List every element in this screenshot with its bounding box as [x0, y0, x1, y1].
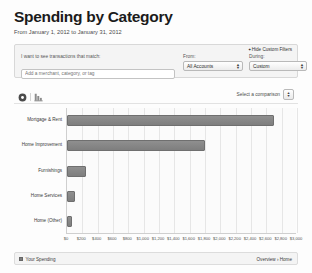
during-filter-field: During: Custom ▲▼ — [249, 54, 307, 71]
filter-panel: ✦Hide Custom Filters I want to see trans… — [14, 44, 298, 78]
chevron-updown-icon: ▲▼ — [287, 92, 291, 98]
chart-legend: Your Spending — [19, 257, 55, 262]
chart-bar[interactable] — [67, 166, 86, 177]
x-tick-label: $2,400 — [244, 236, 257, 241]
chart-bar[interactable] — [67, 216, 72, 227]
report-header: Spending by Category From January 1, 201… — [0, 0, 312, 35]
chart-bar[interactable] — [67, 140, 205, 151]
legend-swatch — [19, 257, 23, 261]
x-tick-label: $1,200 — [152, 236, 165, 241]
x-tick-label: $2,000 — [213, 236, 226, 241]
during-filter-label: During: — [249, 54, 307, 59]
x-tick-label: $1,800 — [198, 236, 211, 241]
x-tick-label: $2,600 — [259, 236, 272, 241]
spending-report-page: Spending by Category From January 1, 201… — [0, 0, 312, 273]
category-label[interactable]: Home Improvement — [2, 142, 62, 147]
x-tick-label: $1,400 — [167, 236, 180, 241]
account-select[interactable]: All Accounts ▲▼ — [183, 61, 243, 71]
gridline — [159, 108, 160, 233]
gridline — [128, 108, 129, 233]
comparison-toolbar: Select a comparison ▲▼ — [14, 84, 298, 104]
x-tick-label: $600 — [107, 236, 116, 241]
period-select-value: Custom — [253, 64, 270, 69]
match-filter-field: I want to see transactions that match: — [21, 54, 175, 79]
chart-footer: Your Spending Overview › Home — [14, 252, 298, 265]
x-tick-label: $1,600 — [182, 236, 195, 241]
from-filter-field: From: All Accounts ▲▼ — [183, 54, 243, 71]
chevron-updown-icon: ▲▼ — [300, 63, 304, 69]
chevron-updown-icon: ▲▼ — [236, 63, 240, 69]
select-comparison-label: Select a comparison — [237, 92, 280, 97]
gridline — [113, 108, 114, 233]
date-range-label: From January 1, 2012 to January 31, 2012 — [14, 29, 312, 35]
category-label[interactable]: Home (Other) — [2, 218, 62, 223]
gridline — [251, 108, 252, 233]
gridline — [266, 108, 267, 233]
star-icon: ✦ — [248, 47, 251, 52]
gridline — [205, 108, 206, 233]
chart-bar[interactable] — [67, 191, 75, 202]
comparison-control: Select a comparison ▲▼ — [237, 89, 294, 100]
category-label[interactable]: Furnishings — [2, 168, 62, 173]
category-label[interactable]: Mortgage & Rent — [2, 117, 62, 122]
chart-plot-area — [66, 108, 296, 234]
spending-bar-chart: Mortgage & RentHome ImprovementFurnishin… — [14, 106, 298, 248]
view-switcher — [18, 88, 43, 106]
gridline — [174, 108, 175, 233]
gridline — [144, 108, 145, 233]
period-select[interactable]: Custom ▲▼ — [249, 61, 307, 71]
hide-custom-filters-label: Hide Custom Filters — [252, 47, 292, 52]
x-tick-label: $800 — [123, 236, 132, 241]
pie-chart-icon[interactable] — [18, 88, 27, 106]
x-tick-label: $400 — [92, 236, 101, 241]
chart-bar[interactable] — [67, 115, 274, 126]
legend-label: Your Spending — [26, 257, 56, 262]
gridline — [282, 108, 283, 233]
from-filter-label: From: — [183, 54, 243, 59]
gridline — [220, 108, 221, 233]
x-tick-label: $0 — [64, 236, 69, 241]
x-tick-label: $2,800 — [274, 236, 287, 241]
x-tick-label: $2,200 — [228, 236, 241, 241]
icon-divider — [30, 93, 31, 101]
gridline — [98, 108, 99, 233]
page-title: Spending by Category — [14, 8, 312, 25]
match-filter-label: I want to see transactions that match: — [21, 54, 175, 59]
match-search-input[interactable] — [21, 69, 175, 79]
x-tick-label: $1,000 — [136, 236, 149, 241]
account-select-value: All Accounts — [187, 64, 213, 69]
x-tick-label: $200 — [77, 236, 86, 241]
breadcrumb[interactable]: Overview › Home — [257, 257, 292, 262]
x-tick-label: $3,000 — [290, 236, 303, 241]
gridline — [297, 108, 298, 233]
gridline — [236, 108, 237, 233]
gridline — [190, 108, 191, 233]
comparison-select[interactable]: ▲▼ — [283, 89, 294, 100]
hide-custom-filters-button[interactable]: ✦Hide Custom Filters — [248, 47, 292, 52]
bar-chart-icon[interactable] — [34, 88, 43, 106]
category-label[interactable]: Home Services — [2, 193, 62, 198]
